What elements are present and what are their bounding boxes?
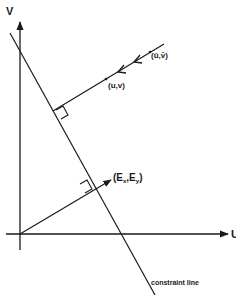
horizontal-axis-label: U xyxy=(231,228,236,240)
constraint-line xyxy=(10,33,155,295)
vertical-axis-label: V xyxy=(6,5,14,17)
right-angle-mark-lower xyxy=(80,180,92,193)
gradient-open: (E xyxy=(113,172,123,183)
gradient-vector-label: (Ex,Ey) xyxy=(113,172,142,184)
gradient-vector xyxy=(20,180,111,234)
constraint-line-label: constraint line xyxy=(151,279,199,286)
constraint-line-diagram: V U constraint line (ū,v̄) (u,v) (Ex,Ey) xyxy=(0,0,236,303)
gradient-comma: ,E xyxy=(126,172,136,183)
estimate-point-label: (ū,v̄) xyxy=(151,51,168,60)
point-solution xyxy=(105,78,108,81)
solution-point-label: (u,v) xyxy=(108,81,125,90)
gradient-close: ) xyxy=(139,172,142,183)
